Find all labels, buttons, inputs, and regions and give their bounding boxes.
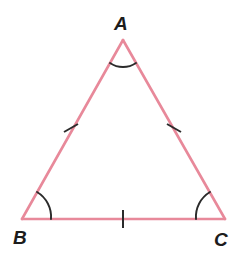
vertex-label-c: C <box>214 230 228 249</box>
triangle-diagram-svg <box>0 0 248 253</box>
angle-arcs <box>37 63 210 219</box>
angle-arc-a-icon <box>110 63 136 67</box>
vertex-label-b: B <box>13 228 27 247</box>
vertex-label-a: A <box>114 14 128 33</box>
angle-arc-c-icon <box>196 192 210 219</box>
congruence-tick-marks <box>64 124 181 228</box>
angle-arc-b-icon <box>37 192 51 219</box>
geometry-figure: A B C <box>0 0 248 253</box>
